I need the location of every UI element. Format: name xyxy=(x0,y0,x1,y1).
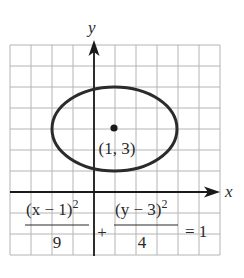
center-point xyxy=(110,124,117,131)
term2-numerator-base: (y − 3) xyxy=(115,200,161,219)
ellipse-graph: x y (1, 3) (x − 1)2 9 + (y − 3)2 4 = 1 xyxy=(0,0,244,278)
term2-denominator: 4 xyxy=(138,233,147,252)
term1-numerator: (x − 1)2 xyxy=(26,197,78,219)
term1-denominator: 9 xyxy=(53,233,62,252)
term1-numerator-base: (x − 1) xyxy=(26,200,72,219)
y-axis-label: y xyxy=(86,18,96,37)
term1-exponent: 2 xyxy=(72,197,78,211)
equation: (x − 1)2 9 + (y − 3)2 4 = 1 xyxy=(25,197,207,252)
equals-one: = 1 xyxy=(185,222,207,241)
term2-exponent: 2 xyxy=(161,197,167,211)
plus-sign: + xyxy=(97,223,107,242)
term2-numerator: (y − 3)2 xyxy=(115,197,167,219)
center-label: (1, 3) xyxy=(99,139,136,158)
axes: x y xyxy=(10,18,233,256)
x-axis-label: x xyxy=(224,182,233,201)
